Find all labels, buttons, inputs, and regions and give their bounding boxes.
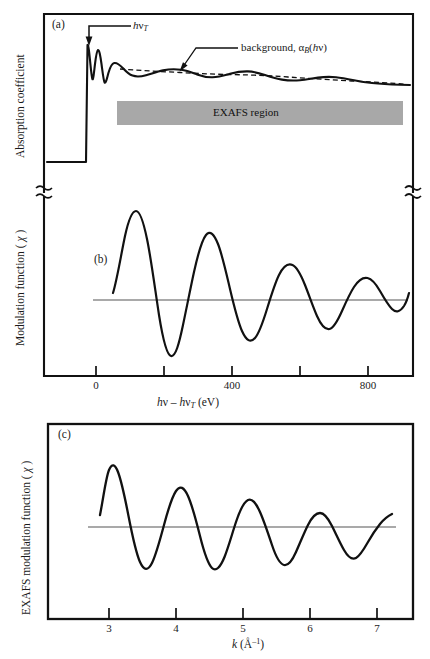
panel-c-letter: (c)	[58, 428, 71, 440]
panel-c-xlabel: k (Å–1)	[232, 637, 264, 650]
panel-b-xtick-400: 400	[218, 379, 246, 391]
panel-c-xtick-7: 7	[363, 622, 391, 634]
panel-c-group	[48, 424, 413, 619]
panel-c-xtick-5: 5	[229, 622, 257, 634]
panel-c-ylabel: EXAFS modulation function ( χ )	[20, 461, 32, 615]
panel-a-ylabel: Absorption coefficient	[14, 54, 26, 158]
xafs-figure: (a) Absorption coefficient hνT backgroun…	[0, 0, 430, 659]
panel-b-ylabel: Modulation function ( χ )	[14, 230, 26, 346]
panel-b-xticks	[96, 366, 368, 376]
panel-c-frame	[48, 424, 413, 619]
panel-b-letter: (b)	[94, 253, 107, 265]
panel-b-xtick-0: 0	[82, 379, 110, 391]
panel-a-letter: (a)	[52, 18, 65, 30]
panel-c-xticks	[109, 608, 377, 619]
figure-canvas	[0, 0, 430, 659]
modulation-curve-b	[113, 211, 409, 356]
panel-c-xtick-3: 3	[95, 622, 123, 634]
threshold-arrow	[86, 26, 131, 46]
background-arrow	[180, 48, 239, 72]
panel-c-xtick-6: 6	[296, 622, 324, 634]
panel-b-xlabel: hν – hνT (eV)	[157, 396, 219, 410]
panel-b-xtick-800: 800	[354, 379, 382, 391]
threshold-label: hνT	[133, 19, 148, 33]
background-label: background, αB(hν)	[241, 41, 327, 55]
exafs-chi-curve	[100, 465, 392, 569]
panel-b-group	[44, 196, 413, 376]
panel-c-xtick-4: 4	[162, 622, 190, 634]
exafs-region-label: EXAFS region	[213, 106, 279, 118]
